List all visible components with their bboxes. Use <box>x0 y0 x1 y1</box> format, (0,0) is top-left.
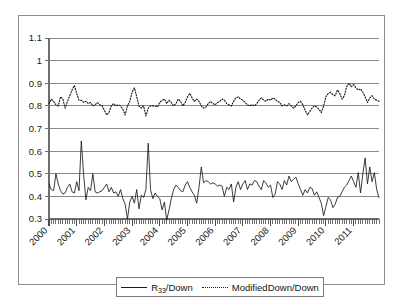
series-line-r33 <box>49 141 379 220</box>
chart-figure: 0.30.40.50.60.70.80.911.1200020012002200… <box>0 0 403 306</box>
y-axis-tick-label: 0.5 <box>29 168 42 179</box>
legend-entry-modifieddown: ModifiedDown/Down <box>202 282 319 293</box>
figure-frame: 0.30.40.50.60.70.80.911.1200020012002200… <box>18 15 385 285</box>
x-axis-tick-label: 2002 <box>82 225 105 248</box>
x-axis-tick-label: 2009 <box>276 225 299 248</box>
x-axis-tick-label: 2000 <box>27 225 50 248</box>
legend-label-modifieddown: ModifiedDown/Down <box>232 282 319 293</box>
x-axis-tick-label: 2007 <box>221 225 244 248</box>
y-axis-tick-label: 0.4 <box>29 191 42 202</box>
x-axis-tick-label: 2006 <box>193 225 216 248</box>
series-line-modifieddown <box>49 83 379 116</box>
chart-legend: R33/Down ModifiedDown/Down <box>116 277 324 297</box>
x-axis-tick-label: 2005 <box>165 225 188 248</box>
y-axis-tick-label: 1 <box>37 55 42 66</box>
legend-dotted-line-icon <box>202 283 228 292</box>
y-axis-tick-label: 0.3 <box>29 213 42 224</box>
y-axis-tick-label: 0.8 <box>29 100 42 111</box>
x-axis-tick-label: 2004 <box>137 225 160 248</box>
x-axis-tick-label: 2008 <box>248 225 271 248</box>
legend-solid-line-icon <box>121 283 147 292</box>
y-axis-tick-label: 0.9 <box>29 78 42 89</box>
chart-canvas: 0.30.40.50.60.70.80.911.1200020012002200… <box>19 16 384 284</box>
legend-label-r33: R33/Down <box>151 282 193 293</box>
y-axis-tick-label: 1.1 <box>29 32 42 43</box>
legend-entry-r33: R33/Down <box>121 282 193 293</box>
x-axis-tick-label: 2011 <box>332 225 354 247</box>
x-axis-tick-label: 2010 <box>304 225 327 248</box>
y-axis-tick-label: 0.6 <box>29 146 42 157</box>
x-axis-tick-label: 2001 <box>54 225 77 248</box>
y-axis-tick-label: 0.7 <box>29 123 42 134</box>
x-axis-tick-label: 2003 <box>110 225 133 248</box>
